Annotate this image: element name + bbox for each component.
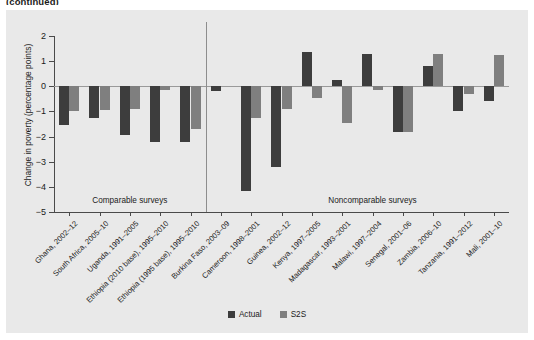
y-tick-label: −2 (36, 132, 46, 142)
x-category-label: Cameroon, 1998–2001 (200, 219, 261, 280)
bar-actual (393, 86, 403, 131)
y-tick (49, 61, 54, 62)
bar-actual (453, 86, 463, 111)
y-tick (49, 36, 54, 37)
chart-legend: ActualS2S (6, 310, 528, 319)
figure-root: (continued) Change in poverty (percentag… (0, 0, 534, 340)
y-tick-label: −5 (36, 207, 46, 217)
bar-actual (180, 86, 190, 141)
x-tick (494, 212, 495, 216)
y-tick-label: 2 (41, 31, 46, 41)
bar-actual (423, 66, 433, 86)
y-tick-label: −4 (36, 182, 46, 192)
group-annotation-noncomparable: Noncomparable surveys (328, 196, 416, 205)
x-tick (342, 212, 343, 216)
y-tick-label: −3 (36, 157, 46, 167)
bar-s2s (494, 55, 504, 86)
bar-actual (150, 86, 160, 141)
bar-s2s (100, 86, 110, 110)
bar-s2s (130, 86, 140, 109)
chart-panel: Change in poverty (percentage points) 21… (6, 10, 528, 333)
legend-item-s2s: S2S (280, 310, 306, 319)
bar-s2s (69, 86, 79, 111)
x-tick (282, 212, 283, 216)
legend-label-actual: Actual (239, 310, 262, 319)
x-tick (433, 212, 434, 216)
bar-s2s (464, 86, 474, 94)
bar-s2s (373, 86, 383, 90)
x-category-label: Tanzania, 1991–2012 (416, 219, 474, 277)
x-tick (100, 212, 101, 216)
y-axis-label: Change in poverty (percentage points) (23, 25, 33, 205)
x-tick (160, 212, 161, 216)
bar-actual (332, 80, 342, 86)
x-tick (464, 212, 465, 216)
y-axis-line (54, 36, 55, 212)
y-tick-label: −1 (36, 106, 46, 116)
bar-s2s (312, 86, 322, 97)
plot-area: 210−1−2−3−4−5 Ghana, 2002–12South Africa… (54, 36, 509, 212)
bar-actual (302, 52, 312, 86)
bar-actual (241, 86, 251, 190)
x-tick (373, 212, 374, 216)
bar-s2s (433, 54, 443, 87)
y-tick (49, 137, 54, 138)
y-tick (49, 86, 54, 87)
bar-s2s (403, 86, 413, 131)
x-tick (312, 212, 313, 216)
bar-actual (484, 86, 494, 101)
bar-s2s (191, 86, 201, 129)
legend-item-actual: Actual (228, 310, 262, 319)
bar-actual (89, 86, 99, 117)
legend-swatch-actual (228, 311, 235, 318)
x-category-label: South Africa, 2005–10 (51, 219, 110, 278)
bar-actual (120, 86, 130, 135)
legend-label-s2s: S2S (291, 310, 306, 319)
group-annotation-comparable: Comparable surveys (92, 196, 167, 205)
x-tick (221, 212, 222, 216)
x-tick (251, 212, 252, 216)
bar-actual (211, 86, 221, 91)
group-divider (206, 22, 207, 212)
x-tick (403, 212, 404, 216)
bar-actual (362, 54, 372, 87)
y-tick-label: 0 (41, 81, 46, 91)
x-tick (130, 212, 131, 216)
x-tick (191, 212, 192, 216)
x-category-label: Burkina Faso, 2003–09 (169, 219, 231, 281)
legend-swatch-s2s (280, 311, 287, 318)
bar-s2s (160, 86, 170, 90)
y-tick (49, 162, 54, 163)
bar-s2s (251, 86, 261, 117)
bar-s2s (282, 86, 292, 109)
x-tick (69, 212, 70, 216)
bar-actual (59, 86, 69, 125)
figure-title: (continued) (6, 0, 59, 5)
bar-actual (271, 86, 281, 166)
bar-s2s (342, 86, 352, 122)
y-tick (49, 212, 54, 213)
x-category-label: Uganda, 1991–2005 (85, 219, 140, 274)
y-tick (49, 187, 54, 188)
y-tick-label: 1 (41, 56, 46, 66)
y-tick (49, 111, 54, 112)
